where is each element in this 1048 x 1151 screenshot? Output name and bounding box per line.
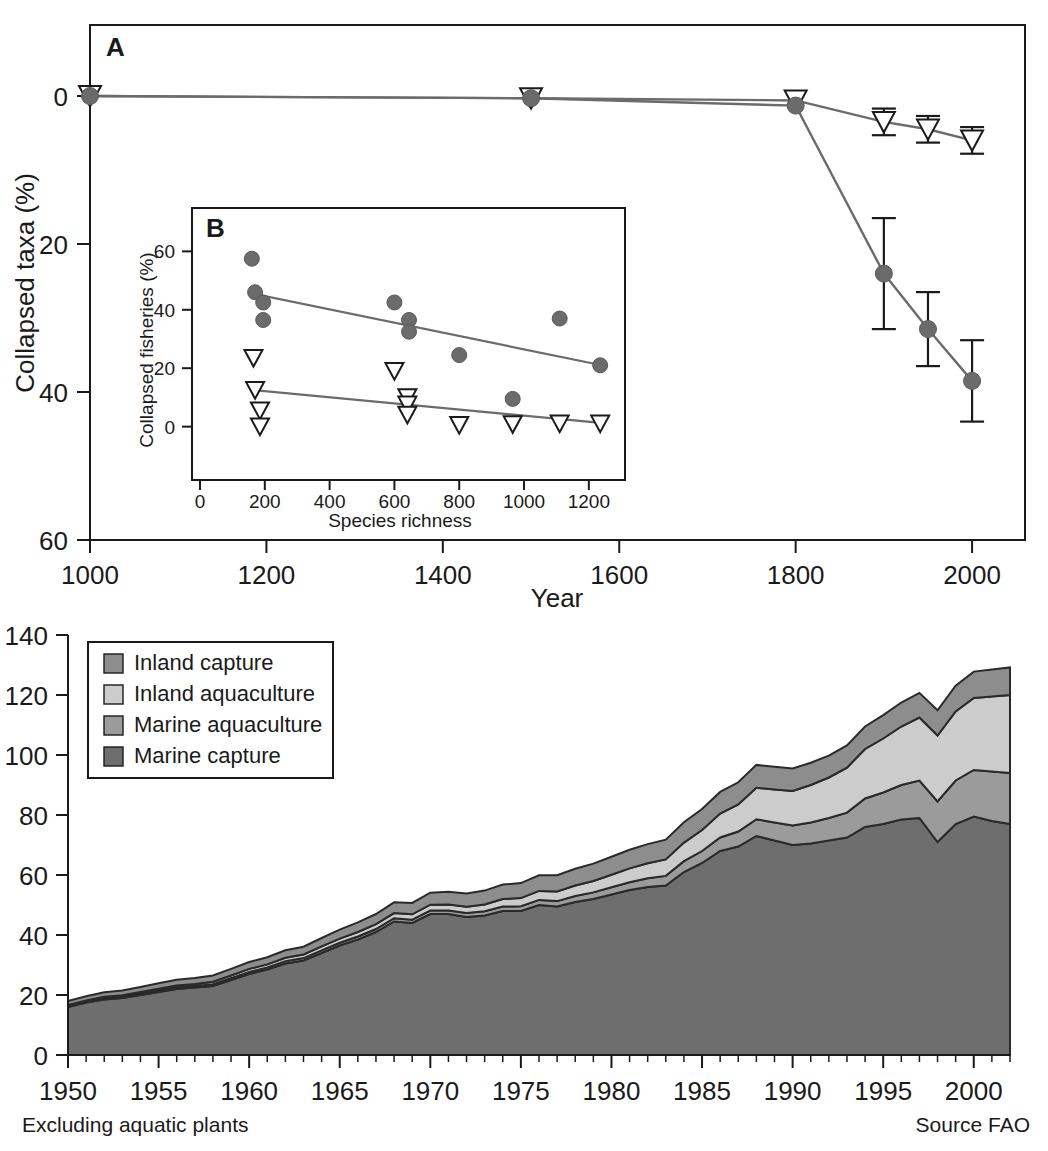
panel-c-x-tick-label-1955: 1955 [130, 1076, 188, 1106]
panel-b-marker-circle-10 [593, 358, 608, 373]
footnote-right: Source FAO [916, 1113, 1030, 1136]
panel-a-marker-circle-1 [523, 90, 540, 107]
panel-c-y-tick-label-80: 80 [19, 801, 48, 831]
panel-b-y-tick-label-0: 0 [164, 417, 175, 438]
legend-swatch-marine-capture [104, 747, 123, 766]
panel-c-x-tick-label-1965: 1965 [311, 1076, 369, 1106]
panel-a-container: A 0204060 100012001400160018002000 Colla… [0, 0, 1048, 620]
panel-c-x-tick-label-1980: 1980 [583, 1076, 641, 1106]
panel-b-background [192, 208, 625, 480]
panel-b-x-tick-label-800: 800 [443, 491, 475, 512]
panel-a-y-tick-label-0: 0 [54, 82, 68, 112]
panel-c-y-tick-label-0: 0 [34, 1041, 48, 1071]
panel-b-marker-circle-6 [402, 324, 417, 339]
panel-a-marker-circle-2 [787, 97, 804, 114]
panel-a-x-tick-label-1600: 1600 [590, 560, 648, 590]
panel-a-y-axis-title: Collapsed taxa (%) [10, 173, 40, 393]
panel-c-y-tick-label-20: 20 [19, 981, 48, 1011]
panel-c-x-tick-label-2000: 2000 [945, 1076, 1003, 1106]
area-band-marine-capture [68, 817, 1010, 1056]
panel-c-y-tick-label-120: 120 [5, 681, 48, 711]
panel-b-y-tick-label-40: 40 [154, 300, 175, 321]
panel-a-y-tick-label-20: 20 [39, 230, 68, 260]
panel-b-marker-circle-3 [256, 313, 271, 328]
panel-b-marker-circle-0 [244, 251, 259, 266]
panel-b-y-tick-label-60: 60 [154, 241, 175, 262]
panel-b-x-tick-label-1200: 1200 [568, 491, 610, 512]
panel-a-marker-triangle-5 [961, 131, 983, 151]
panel-c-y-ticks: 020406080100120140 [5, 621, 68, 1071]
panel-b-x-tick-label-1000: 1000 [503, 491, 545, 512]
panel-a-y-tick-label-40: 40 [39, 378, 68, 408]
panel-c-y-tick-label-100: 100 [5, 741, 48, 771]
legend-label-inland-aquaculture: Inland aquaculture [134, 681, 315, 706]
panel-a-marker-circle-5 [964, 372, 981, 389]
panel-c-y-tick-label-40: 40 [19, 921, 48, 951]
panel-a-marker-triangle-4 [917, 119, 939, 139]
panel-b-x-ticks: 020040060080010001200 [195, 480, 610, 512]
panel-b-y-ticks: 0204060 [154, 241, 192, 437]
footnote-left: Excluding aquatic plants [22, 1113, 248, 1136]
panel-a-svg: A 0204060 100012001400160018002000 Colla… [0, 0, 1048, 620]
panel-c-x-tick-label-1950: 1950 [39, 1076, 97, 1106]
panel-b-y-axis-title: Collapsed fisheries (%) [136, 252, 157, 447]
panel-c-x-tick-label-1970: 1970 [401, 1076, 459, 1106]
panel-a-marker-circle-3 [875, 265, 892, 282]
legend-swatch-inland-capture [104, 654, 123, 673]
legend-swatch-marine-aquaculture [104, 716, 123, 735]
panel-a-x-axis-title: Year [531, 583, 584, 613]
panel-b-marker-circle-9 [552, 311, 567, 326]
panel-b-inset: B 0204060 020040060080010001200 Collapse… [136, 208, 625, 531]
legend-label-inland-capture: Inland capture [134, 650, 273, 675]
legend-label-marine-capture: Marine capture [134, 743, 281, 768]
panel-b-x-tick-label-200: 200 [249, 491, 281, 512]
panel-c-x-ticks: 1950195519601965197019751980198519901995… [39, 1055, 1010, 1106]
panel-c-x-tick-label-1985: 1985 [673, 1076, 731, 1106]
panel-b-letter: B [206, 213, 225, 243]
panel-c-x-tick-label-1990: 1990 [764, 1076, 822, 1106]
panel-b-marker-circle-4 [387, 295, 402, 310]
panel-c-legend: Inland captureInland aquacultureMarine a… [88, 642, 333, 778]
panel-a-marker-circle-4 [919, 321, 936, 338]
panel-a-y-tick-label-60: 60 [39, 526, 68, 556]
panel-b-x-tick-label-0: 0 [195, 491, 206, 512]
panel-b-marker-circle-8 [505, 391, 520, 406]
panel-a-x-tick-label-1000: 1000 [61, 560, 119, 590]
panel-b-marker-circle-2 [256, 295, 271, 310]
panel-c-y-tick-label-140: 140 [5, 621, 48, 651]
panel-b-marker-circle-7 [452, 348, 467, 363]
panel-b-x-tick-label-400: 400 [314, 491, 346, 512]
legend-swatch-inland-aquaculture [104, 685, 123, 704]
panel-c-y-tick-label-60: 60 [19, 861, 48, 891]
panel-c-x-tick-label-1960: 1960 [220, 1076, 278, 1106]
panel-a-x-tick-label-1400: 1400 [414, 560, 472, 590]
legend-label-marine-aquaculture: Marine aquaculture [134, 712, 322, 737]
panel-a-x-tick-label-1800: 1800 [767, 560, 825, 590]
panel-c-x-tick-label-1995: 1995 [854, 1076, 912, 1106]
panel-a-x-tick-label-2000: 2000 [943, 560, 1001, 590]
panel-a-marker-circle-0 [82, 88, 99, 105]
panel-a-x-tick-label-1200: 1200 [237, 560, 295, 590]
panel-b-x-tick-label-600: 600 [379, 491, 411, 512]
panel-c-x-tick-label-1975: 1975 [492, 1076, 550, 1106]
panel-c-svg: 020406080100120140 195019551960196519701… [0, 620, 1048, 1151]
panel-a-y-ticks: 0204060 [39, 82, 90, 556]
panel-a-letter: A [106, 32, 125, 62]
panel-c-container: 020406080100120140 195019551960196519701… [0, 620, 1048, 1151]
panel-b-y-tick-label-20: 20 [154, 358, 175, 379]
scientific-figure: A 0204060 100012001400160018002000 Colla… [0, 0, 1048, 1151]
panel-b-x-axis-title: Species richness [328, 510, 472, 531]
